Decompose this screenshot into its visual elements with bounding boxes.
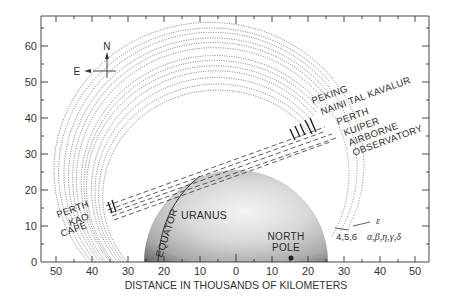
svg-text:60: 60 (25, 40, 37, 52)
observatory-labels-right: PEKING NAINI TAL KAVALUR PERTH KUIPER AI… (310, 74, 424, 158)
svg-text:0: 0 (31, 256, 37, 268)
svg-text:0: 0 (233, 265, 239, 277)
svg-text:10: 10 (194, 265, 206, 277)
east-arrow-icon (84, 69, 91, 73)
svg-text:40: 40 (374, 265, 386, 277)
north-pole-marker (289, 256, 294, 261)
svg-text:50: 50 (409, 265, 421, 277)
svg-text:50: 50 (50, 265, 62, 277)
svg-text:10: 10 (266, 265, 278, 277)
y-tick-labels: 0 10 20 30 40 50 60 (25, 40, 37, 268)
svg-text:10: 10 (25, 220, 37, 232)
uranus-label: URANUS (181, 209, 227, 221)
x-tick-labels: 50 40 30 20 10 0 10 20 30 40 50 (50, 265, 421, 277)
svg-text:CAPE: CAPE (59, 219, 88, 239)
ring-group-labels: 4,5,6 α,β,η,γ,δ ε (335, 215, 401, 242)
svg-text:30: 30 (338, 265, 350, 277)
svg-text:30: 30 (122, 265, 134, 277)
svg-text:20: 20 (302, 265, 314, 277)
svg-text:α,β,η,γ,δ: α,β,η,γ,δ (367, 231, 401, 242)
svg-text:40: 40 (86, 265, 98, 277)
svg-text:50: 50 (25, 76, 37, 88)
east-label: E (74, 66, 81, 77)
svg-text:20: 20 (158, 265, 170, 277)
svg-text:20: 20 (25, 184, 37, 196)
north-label: N (103, 41, 111, 52)
north-arrow-icon (105, 52, 109, 59)
svg-text:ε: ε (376, 215, 380, 226)
x-axis-label: DISTANCE IN THOUSANDS OF KILOMETERS (125, 279, 347, 291)
north-pole-label-2: POLE (272, 242, 300, 253)
svg-text:40: 40 (25, 112, 37, 124)
svg-text:30: 30 (25, 148, 37, 160)
svg-text:4,5,6: 4,5,6 (336, 231, 357, 242)
north-pole-label-1: NORTH (268, 231, 305, 242)
occultation-diagram: 50 40 30 20 10 0 10 20 30 40 50 DISTANCE… (0, 0, 450, 296)
compass: N E (74, 41, 116, 78)
